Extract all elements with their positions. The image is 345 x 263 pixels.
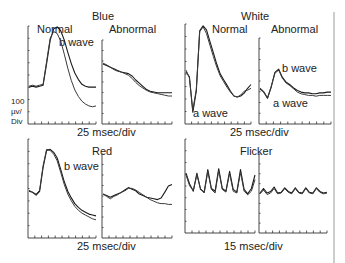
- group-title-flicker: Flicker: [240, 145, 273, 157]
- axis-blue-abnormal: [102, 40, 172, 124]
- scale-label-line-2: µv/: [11, 107, 23, 116]
- annotation-a-wave-white-abnormal: a wave: [273, 97, 308, 109]
- erg-trace-white-abnormal-2: [260, 70, 331, 99]
- erg-trace-blue-abnormal-1: [103, 64, 172, 93]
- axis-white-abnormal: [259, 38, 331, 124]
- scale-label-line-1: 100: [11, 97, 25, 106]
- panel-white-abnormal: [259, 38, 331, 124]
- panel-red-normal: [28, 139, 96, 238]
- annotation-b-wave-blue: b wave: [59, 36, 94, 48]
- group-title-blue: Blue: [92, 10, 114, 22]
- panel-label-blue-normal: Normal: [37, 23, 72, 35]
- axis-red-normal: [28, 139, 96, 238]
- panel-flicker-abnormal: [259, 154, 327, 233]
- panel-red-abnormal: [102, 154, 172, 238]
- erg-trace-flicker-abnormal-1: [260, 187, 327, 193]
- panel-label-blue-abnormal: Abnormal: [109, 23, 156, 35]
- timebase-blue: 25 msec/div: [77, 126, 136, 138]
- erg-figure: Blue White Red Flicker Normal Abnormal N…: [0, 0, 345, 263]
- timebase-red: 25 msec/div: [77, 240, 136, 252]
- annotation-b-wave-white-abnormal: b wave: [282, 62, 317, 74]
- timebase-flicker: 15 msec/div: [224, 240, 283, 252]
- erg-trace-white-normal-1: [186, 26, 251, 112]
- timebase-white: 25 msec/div: [230, 126, 289, 138]
- group-title-white: White: [241, 10, 269, 22]
- scale-label-line-3: Div: [11, 117, 23, 126]
- panel-label-white-abnormal: Abnormal: [271, 23, 318, 35]
- panel-blue-abnormal: [102, 40, 172, 124]
- annotation-b-wave-red: b wave: [64, 160, 99, 172]
- annotation-a-wave-white-normal: a wave: [193, 107, 228, 119]
- panel-label-white-normal: Normal: [212, 23, 247, 35]
